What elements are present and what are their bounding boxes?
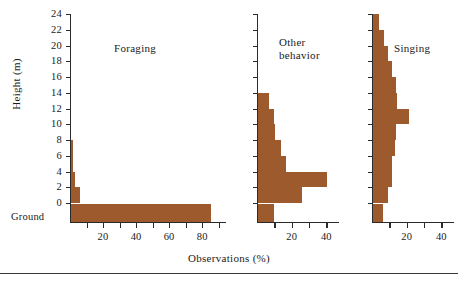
y-tick-18: 18 [36,56,62,67]
x-tickmark [441,223,442,228]
bar-2-4 [373,172,392,188]
x-tick-label-60: 60 [156,231,182,242]
x-tickmark [136,223,137,228]
panel-foraging: 20406080Foraging [70,0,222,289]
bar-12-14 [373,93,397,109]
x-tickmark [153,223,154,228]
bar-14-16 [373,77,396,93]
y-tick-0: 0 [36,198,62,209]
y-axis-tick-labels: 242220181614121086420 [36,0,62,289]
x-tick-label-20: 20 [279,231,305,242]
bar-12-14 [258,93,269,109]
x-tick-label-20: 20 [90,231,116,242]
panel-title-line: Other [279,36,320,49]
bar-6-8 [258,140,281,156]
y-tick-16: 16 [36,72,62,83]
bar-4-6 [258,156,286,172]
bar-10-12 [258,109,274,125]
x-tickmark [309,223,310,228]
bar-8-10 [373,124,396,140]
y-tickmark [66,77,71,78]
y-tickmark [66,93,71,94]
bar-6-8 [373,140,395,156]
bar-10-12 [373,109,409,125]
y-tick-14: 14 [36,88,62,99]
x-tick-label-80: 80 [189,231,215,242]
y-tick-12: 12 [36,104,62,115]
bar-8-10 [258,124,275,140]
panel-title: Otherbehavior [279,36,320,62]
y-axis-label: Height (m) [10,24,22,144]
chart-figure: Height (m) 242220181614121086420 Ground … [0,0,458,289]
x-tick-label-20: 20 [394,231,420,242]
bar-22-24 [373,14,379,30]
bar-4-6 [71,156,73,172]
panel-title: Foraging [114,42,156,55]
x-tick-label-40: 40 [313,231,339,242]
bar-0-2 [71,187,80,203]
x-tickmark [389,223,390,228]
x-tickmark [424,223,425,228]
panel-title-line: behavior [279,49,320,62]
bar-ground [258,204,274,222]
footer-rule [0,273,458,274]
y-tickmark [66,109,71,110]
x-tickmark [87,223,88,228]
y-tickmark [66,14,71,15]
y-tick-2: 2 [36,182,62,193]
y-tickmark [66,46,71,47]
bar-18-20 [373,46,388,62]
bar-ground [373,204,383,222]
y-axis-ground-label: Ground [11,211,44,222]
panel-title-line: Singing [394,42,430,55]
y-tickmark [253,30,258,31]
panel-title: Singing [394,42,430,55]
y-tickmark [66,124,71,125]
y-tick-24: 24 [36,9,62,20]
x-tickmark [103,223,104,228]
y-tickmark [253,46,258,47]
y-tick-10: 10 [36,119,62,130]
x-tickmark [292,223,293,228]
bar-2-4 [71,172,75,188]
y-tick-4: 4 [36,167,62,178]
x-tickmark [186,223,187,228]
x-tickmark [202,223,203,228]
x-axis-label: Observations (%) [0,252,458,264]
panel-singing: 2040Singing [372,0,450,289]
y-tickmark [253,77,258,78]
y-tickmark [253,14,258,15]
bar-0-2 [373,187,388,203]
bar-6-8 [71,140,73,156]
x-tickmark [407,223,408,228]
y-tickmark [66,30,71,31]
y-tickmark [253,61,258,62]
bar-4-6 [373,156,392,172]
x-tickmark [274,223,275,228]
x-tickmark [326,223,327,228]
bar-ground [71,204,211,222]
bar-2-4 [258,172,327,188]
x-tick-label-40: 40 [123,231,149,242]
x-tickmark [169,223,170,228]
panel-title-line: Foraging [114,42,156,55]
x-tickmark [120,223,121,228]
x-tickmark [219,223,220,228]
bar-20-22 [373,30,384,46]
y-tick-6: 6 [36,151,62,162]
y-tick-20: 20 [36,41,62,52]
y-tickmark [66,61,71,62]
panel-other-behavior: 2040Otherbehavior [257,0,335,289]
bar-0-2 [258,187,302,203]
x-tick-label-40: 40 [428,231,454,242]
y-tick-8: 8 [36,135,62,146]
y-tick-22: 22 [36,25,62,36]
bar-16-18 [373,61,392,77]
